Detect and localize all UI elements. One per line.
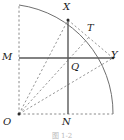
- geometry-figure: M O X T Y Q N 图 1-2: [0, 0, 124, 140]
- point-label-T: T: [87, 22, 94, 33]
- point-label-M: M: [2, 51, 12, 62]
- figure-caption: 图 1-2: [0, 132, 124, 140]
- point-label-N: N: [62, 116, 71, 127]
- point-label-X: X: [63, 1, 70, 12]
- point-marker-X: [67, 19, 70, 22]
- point-label-O: O: [3, 116, 11, 127]
- point-label-Q: Q: [71, 61, 79, 72]
- segment-O-T: [19, 36, 90, 114]
- point-marker-O: [18, 113, 21, 116]
- arc-quarter-circle: [19, 5, 113, 114]
- point-label-Y: Y: [111, 49, 118, 60]
